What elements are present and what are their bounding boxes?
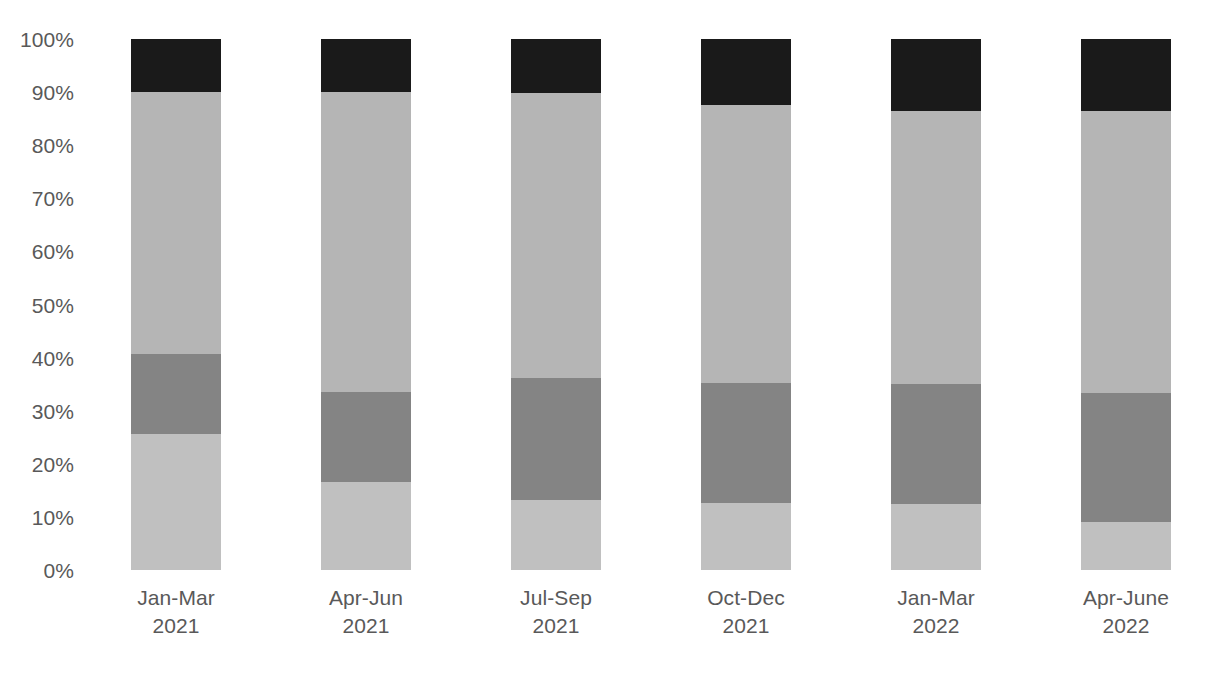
bar-segment[interactable]	[701, 105, 791, 383]
bar-stack[interactable]	[1081, 39, 1171, 570]
x-axis-category-period: Oct-Dec	[666, 584, 826, 612]
y-axis-tick-label: 80%	[32, 135, 74, 156]
bar-group: Apr-June2022	[1081, 0, 1171, 674]
bar-segment[interactable]	[1081, 522, 1171, 570]
y-axis-tick-label: 40%	[32, 347, 74, 368]
bar-segment[interactable]	[321, 39, 411, 92]
y-axis-tick-label: 30%	[32, 400, 74, 421]
bar-segment[interactable]	[1081, 39, 1171, 111]
plot-area: Jan-Mar2021Apr-Jun2021Jul-Sep2021Oct-Dec…	[88, 0, 1207, 674]
bar-segment[interactable]	[891, 504, 981, 570]
y-axis: 0%10%20%30%40%50%60%70%80%90%100%	[0, 0, 88, 674]
bar-segment[interactable]	[891, 384, 981, 504]
y-axis-tick-label: 70%	[32, 188, 74, 209]
bar-segment[interactable]	[511, 500, 601, 570]
x-axis-category-label: Jan-Mar2021	[96, 584, 256, 639]
y-axis-tick-label: 90%	[32, 82, 74, 103]
bar-segment[interactable]	[131, 39, 221, 92]
bar-group: Jan-Mar2021	[131, 0, 221, 674]
y-axis-tick-label: 50%	[32, 294, 74, 315]
bar-stack[interactable]	[131, 39, 221, 570]
bar-stack[interactable]	[511, 39, 601, 570]
bar-group: Jul-Sep2021	[511, 0, 601, 674]
bar-stack[interactable]	[891, 39, 981, 570]
bar-group: Oct-Dec2021	[701, 0, 791, 674]
x-axis-category-label: Oct-Dec2021	[666, 584, 826, 639]
bar-segment[interactable]	[701, 383, 791, 503]
x-axis-category-period: Jan-Mar	[856, 584, 1016, 612]
bar-group: Apr-Jun2021	[321, 0, 411, 674]
bar-segment[interactable]	[511, 39, 601, 93]
bar-segment[interactable]	[131, 92, 221, 354]
y-axis-tick-label: 60%	[32, 241, 74, 262]
bar-segment[interactable]	[511, 93, 601, 378]
bar-segment[interactable]	[891, 39, 981, 111]
x-axis-category-label: Apr-June2022	[1046, 584, 1206, 639]
bar-segment[interactable]	[321, 92, 411, 392]
x-axis-category-label: Apr-Jun2021	[286, 584, 446, 639]
bar-segment[interactable]	[891, 111, 981, 384]
bar-segment[interactable]	[131, 354, 221, 434]
bar-segment[interactable]	[1081, 393, 1171, 522]
bar-stack[interactable]	[701, 39, 791, 570]
bar-group: Jan-Mar2022	[891, 0, 981, 674]
y-axis-tick-label: 100%	[20, 29, 74, 50]
x-axis-category-period: Jan-Mar	[96, 584, 256, 612]
x-axis-category-year: 2022	[856, 612, 1016, 640]
stacked-bar-chart: 0%10%20%30%40%50%60%70%80%90%100% Jan-Ma…	[0, 0, 1207, 674]
bar-segment[interactable]	[701, 39, 791, 105]
x-axis-category-period: Apr-June	[1046, 584, 1206, 612]
x-axis-category-period: Jul-Sep	[476, 584, 636, 612]
bar-segment[interactable]	[131, 434, 221, 570]
x-axis-category-label: Jul-Sep2021	[476, 584, 636, 639]
y-axis-tick-label: 0%	[43, 560, 74, 581]
x-axis-category-year: 2022	[1046, 612, 1206, 640]
y-axis-tick-label: 10%	[32, 506, 74, 527]
x-axis-category-year: 2021	[286, 612, 446, 640]
bar-stack[interactable]	[321, 39, 411, 570]
bar-segment[interactable]	[321, 392, 411, 482]
bar-segment[interactable]	[1081, 111, 1171, 393]
x-axis-category-year: 2021	[96, 612, 256, 640]
bar-segment[interactable]	[321, 482, 411, 570]
y-axis-tick-label: 20%	[32, 453, 74, 474]
x-axis-category-period: Apr-Jun	[286, 584, 446, 612]
x-axis-category-year: 2021	[666, 612, 826, 640]
x-axis-category-label: Jan-Mar2022	[856, 584, 1016, 639]
bar-segment[interactable]	[511, 378, 601, 500]
bar-segment[interactable]	[701, 503, 791, 570]
x-axis-category-year: 2021	[476, 612, 636, 640]
